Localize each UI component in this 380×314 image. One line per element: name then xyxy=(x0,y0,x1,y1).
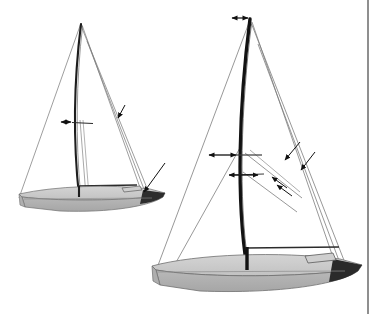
shroud-load-arrow-left xyxy=(144,163,165,192)
lower-shroud-port-large xyxy=(174,146,241,266)
boat-small-left xyxy=(19,24,165,211)
diagonal-port-lower xyxy=(243,172,297,212)
sailboat-rig-diagram xyxy=(0,0,380,314)
jib-luff-line xyxy=(80,120,86,196)
illustration-canvas xyxy=(0,0,380,314)
hull-large xyxy=(152,253,362,292)
page-edge-line xyxy=(367,0,369,314)
boat-large-right xyxy=(144,18,362,292)
shroud-lower-line xyxy=(87,41,147,197)
shroud-upper-line xyxy=(82,25,143,196)
rigging-lines-small xyxy=(19,25,151,199)
boom-small xyxy=(78,185,137,186)
shroud-load-arrow-small xyxy=(118,105,125,118)
backstay-line-large xyxy=(157,20,250,268)
shroud-lower-line-large xyxy=(258,44,341,266)
backstay-line xyxy=(19,25,81,199)
rigging-lines-large xyxy=(157,20,347,268)
hull-small xyxy=(19,186,165,211)
shroud-upper-line-large xyxy=(252,22,336,266)
hull-large-bow-dark xyxy=(329,259,362,282)
annotation-arrows-large xyxy=(144,18,315,196)
boom-large xyxy=(246,247,339,248)
jib-luff-large xyxy=(250,150,300,192)
jib-luff-line-2 xyxy=(83,120,89,196)
mast-large xyxy=(240,19,250,268)
